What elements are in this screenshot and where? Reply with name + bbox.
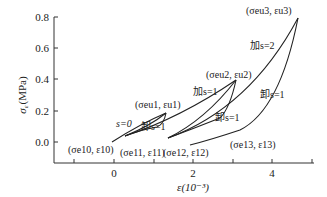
y-axis-subscript: ε — [22, 105, 30, 108]
y-axis-title: σε(MPa) — [16, 76, 30, 114]
y-tick-label: 0.6 — [35, 42, 49, 54]
label-unload-s1-loop2: 卸s=1 — [215, 111, 240, 123]
label-unload-s1-loop3: 卸s=1 — [260, 88, 285, 100]
y-tick-label: 0.8 — [35, 11, 49, 23]
y-tick-label: 0.0 — [35, 136, 49, 148]
stress-strain-chart: 0.8 0.6 0.4 0.2 0.0 0 2 4 ε(10⁻³) σε(MPa… — [0, 0, 327, 197]
label-load-s1: 加s=1 — [193, 86, 218, 97]
curve-unload-loop3 — [190, 18, 298, 145]
y-axis-unit: (MPa) — [16, 76, 29, 104]
y-tick-label: 0.4 — [35, 73, 49, 85]
annotation-end3: (σe13, ε13) — [230, 139, 276, 151]
annotation-end2: (σe12, ε12) — [163, 147, 209, 159]
label-load-s2: 加s=2 — [250, 40, 275, 51]
label-unload-s1-loop1: 卸s=1 — [141, 120, 166, 132]
curves — [112, 18, 298, 145]
annotation-peak3: (σeu3, εu3) — [246, 5, 292, 17]
annotation-end1: (σe11, ε11) — [120, 147, 165, 159]
annotation-peak2: (σeu2, εu2) — [206, 69, 252, 81]
x-tick-label: 4 — [269, 167, 275, 179]
annotation-end0: (σe10, ε10) — [68, 144, 114, 156]
x-tick-label: 0 — [111, 167, 117, 179]
x-tick-label: 2 — [190, 167, 196, 179]
label-s0: s=0 — [116, 118, 132, 129]
y-tick-label: 0.2 — [35, 105, 49, 117]
annotation-peak1: (σeu1, εu1) — [135, 99, 181, 111]
x-axis-title: ε(10⁻³) — [177, 181, 209, 194]
